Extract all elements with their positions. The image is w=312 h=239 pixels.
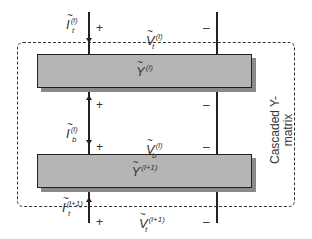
plus-sign: + <box>96 215 103 229</box>
current-label-b-l: ~I(l)b <box>66 125 312 141</box>
symbol-sub: b <box>72 135 76 144</box>
symbol-sup: (l) <box>156 141 163 150</box>
symbol-sup: (l) <box>156 32 163 41</box>
symbol-sub: t <box>145 225 147 234</box>
minus-sign: – <box>203 21 210 35</box>
symbol-base: Y <box>136 64 145 79</box>
y-matrix-block-l: ~Y(l) <box>37 54 252 88</box>
symbol-sub: b <box>152 151 156 160</box>
minus-sign: – <box>203 98 210 112</box>
tilde: ~ <box>67 119 73 130</box>
tilde: ~ <box>67 10 73 21</box>
voltage-label-t-l: ~V(l)t <box>146 32 312 48</box>
current-label-t-l1: ~I(l+1)t <box>62 199 312 215</box>
minus-sign: – <box>203 215 210 229</box>
voltage-label-b-l: ~V(l)b <box>146 141 312 157</box>
symbol-sub: t <box>68 209 70 218</box>
current-arrow-top-l <box>86 38 92 43</box>
tilde: ~ <box>147 135 153 146</box>
tilde: ~ <box>63 193 69 204</box>
tilde: ~ <box>147 26 153 37</box>
symbol-sup: (l+1) <box>141 163 157 172</box>
block-label-l: ~Y(l) <box>136 63 153 79</box>
voltage-label-t-l1: ~V(l+1)t <box>139 215 312 231</box>
plus-sign: + <box>96 98 103 112</box>
y-matrix-block-l1: ~Y(l+1) <box>37 154 252 188</box>
symbol-sup: (l+1) <box>149 215 165 224</box>
current-arrow-bottom-l <box>86 95 92 100</box>
plus-sign: + <box>96 21 103 35</box>
plus-sign: + <box>96 140 103 154</box>
symbol-sup: (l) <box>146 63 153 72</box>
left-wire <box>88 12 90 223</box>
minus-sign: – <box>203 140 210 154</box>
symbol-sub: t <box>152 42 154 51</box>
symbol-base: Y <box>132 164 141 179</box>
tilde: ~ <box>140 209 146 220</box>
symbol-sup: (l+1) <box>67 199 83 208</box>
block-label-l1: ~Y(l+1) <box>132 163 158 179</box>
symbol-sub: t <box>72 26 74 35</box>
